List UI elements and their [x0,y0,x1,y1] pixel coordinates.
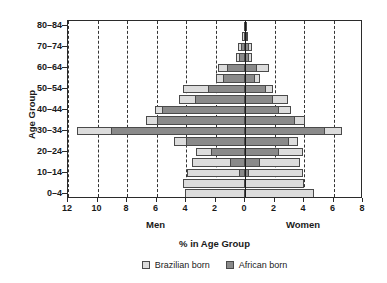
x-tick-label: 6 [153,203,158,213]
y-tick-label: 40–44 [37,104,62,114]
zero-axis-line [245,21,246,197]
bar-african-men-60-64 [227,64,245,73]
x-tick-mark [156,198,157,202]
bar-african-women-35-39 [245,116,295,125]
x-tick-mark [67,198,68,202]
bar-african-men-50-54 [208,85,245,94]
x-tick-mark [215,198,216,202]
bar-african-women-15-19 [245,158,260,167]
gridline [127,21,128,197]
legend-label: Brazilian born [155,260,210,270]
bar-african-women-20-24 [245,148,279,157]
bar-brazilian-men-5-9 [183,179,245,188]
bar-brazilian-men-10-14 [187,169,245,178]
x-tick-label: 4 [300,203,305,213]
men-label: Men [146,219,165,230]
legend-label: African born [239,260,288,270]
x-tick-mark [303,198,304,202]
legend-swatch-icon [142,261,150,269]
y-axis-tick-labels: 0–410–1420–2430–3440–4450–5460–6470–7480… [0,20,62,198]
x-tick-label: 8 [359,203,364,213]
x-tick-mark [244,198,245,202]
bar-african-women-60-64 [245,64,257,73]
x-axis-title: % in Age Group [67,238,362,249]
bar-african-women-30-34 [245,127,325,136]
x-tick-label: 0 [241,203,246,213]
x-tick-label: 6 [330,203,335,213]
population-pyramid-figure: Age Group 0–410–1420–2430–3440–4450–5460… [0,0,387,283]
x-axis-tick-labels: 1210864202468 [67,203,362,216]
bar-brazilian-men-0-4 [185,189,245,198]
side-labels: Men Women [67,219,362,232]
gridline [304,21,305,197]
y-tick-label: 50–54 [37,83,62,93]
bar-african-men-15-19 [230,158,245,167]
x-tick-label: 2 [271,203,276,213]
bar-african-men-20-24 [211,148,245,157]
x-tick-mark [126,198,127,202]
y-tick-label: 20–24 [37,146,62,156]
x-tick-label: 4 [182,203,187,213]
bar-african-men-25-29 [186,137,245,146]
y-tick-label: 80–84 [37,20,62,30]
bar-african-men-35-39 [157,116,246,125]
legend-swatch-icon [226,261,234,269]
bar-african-women-40-44 [245,106,279,115]
x-tick-label: 12 [62,203,72,213]
bar-african-men-45-49 [195,95,245,104]
bar-african-women-55-59 [245,74,255,83]
bar-brazilian-women-5-9 [245,179,304,188]
y-tick-label: 70–74 [37,41,62,51]
women-label: Women [286,219,320,230]
y-tick-label: 60–64 [37,62,62,72]
x-tick-mark [333,198,334,202]
x-tick-mark [274,198,275,202]
gridline [68,21,69,197]
legend-item-brazilian-born[interactable]: Brazilian born [142,260,210,270]
bar-african-men-40-44 [162,106,245,115]
bar-brazilian-women-0-4 [245,189,314,198]
x-tick-mark [362,198,363,202]
y-tick-label: 10–14 [37,167,62,177]
y-tick-label: 30–34 [37,125,62,135]
plot-area [67,20,362,198]
x-tick-label: 10 [91,203,101,213]
bar-african-women-25-29 [245,137,289,146]
chart-legend: Brazilian bornAfrican born [67,260,362,270]
x-tick-label: 8 [123,203,128,213]
bar-african-men-30-34 [111,127,245,136]
x-tick-mark [185,198,186,202]
y-tick-label: 0–4 [47,188,62,198]
bar-brazilian-women-10-14 [245,169,303,178]
bar-african-men-55-59 [223,74,245,83]
gridline [98,21,99,197]
x-tick-label: 2 [212,203,217,213]
gridline [334,21,335,197]
x-tick-mark [97,198,98,202]
bar-african-women-45-49 [245,95,273,104]
bar-african-women-50-54 [245,85,266,94]
legend-item-african-born[interactable]: African born [226,260,288,270]
